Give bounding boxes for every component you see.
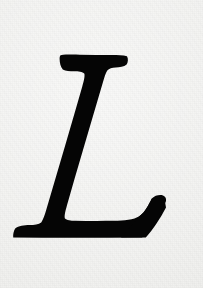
letter-l-terminal-stroke	[121, 195, 166, 237]
scanned-page: L Italic serif capital letter L printed …	[0, 0, 203, 288]
glyph-ink-group	[13, 55, 166, 238]
letter-l-main-stroke	[13, 55, 166, 238]
letter-l-glyph	[0, 0, 203, 288]
glyph-layer	[0, 0, 203, 288]
